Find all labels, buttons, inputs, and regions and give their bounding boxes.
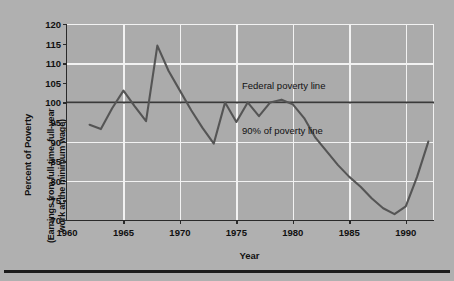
x-axis-tick-label: 1960 [56,227,77,238]
x-axis-tick-label: 1980 [282,227,303,238]
y-axis-tick [63,220,67,221]
y-axis-tick-label: 95 [50,117,61,128]
x-axis-tick [406,220,407,224]
chart-figure: Percent of Poverty (Earnings from full-t… [0,0,454,281]
x-axis-tick-label: 1970 [169,227,190,238]
x-axis-tick [180,220,181,224]
y-axis-tick-label: 100 [45,97,61,108]
y-axis-tick-label: 85 [50,156,61,167]
y-axis-tick-label: 75 [50,195,61,206]
y-axis-tick-label: 80 [50,175,61,186]
x-axis-title: Year [66,250,433,261]
x-axis-tick-label: 1975 [226,227,247,238]
y-axis-title: Percent of Poverty [23,114,33,196]
plot-area: 7075808590951001051101151201960196519701… [66,24,434,221]
x-axis-tick [293,220,294,224]
x-axis-tick-label: 1965 [113,227,134,238]
data-line-svg [67,24,434,220]
y-axis-tick-label: 110 [46,58,61,69]
y-axis-tick-label: 70 [50,215,61,226]
y-axis-tick-label: 115 [46,38,61,49]
y-axis-tick-label: 120 [45,19,61,30]
x-axis-tick [123,220,124,224]
x-axis-tick-label: 1985 [339,227,360,238]
x-axis-tick-label: 1990 [395,227,416,238]
y-axis-tick-label: 105 [45,77,61,88]
y-axis-tick-label: 90 [50,136,61,147]
annotation-90-percent-poverty-line: 90% of poverty line [242,125,323,136]
annotation-federal-poverty-line: Federal poverty line [242,80,325,91]
x-axis-tick [349,220,350,224]
bottom-divider [4,270,450,273]
x-axis-tick [236,220,237,224]
